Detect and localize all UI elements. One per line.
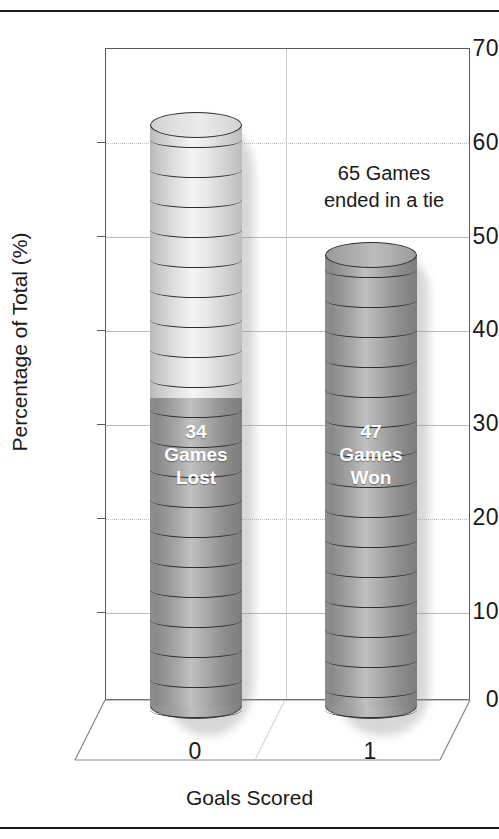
disc-ring — [150, 462, 242, 478]
x-axis-title: Goals Scored — [0, 786, 499, 810]
disc-ring — [325, 352, 417, 368]
bar-top-cap-left — [150, 112, 242, 138]
disc-ring — [150, 582, 242, 598]
disc-ring — [325, 702, 417, 718]
xtick-label-1: 1 — [325, 738, 415, 765]
disc-ring — [150, 192, 242, 208]
ytick-mark-50 — [97, 236, 105, 237]
disc-ring — [325, 562, 417, 578]
disc-ring — [325, 502, 417, 518]
disc-ring — [325, 442, 417, 458]
disc-ring — [150, 252, 242, 268]
page-top-rule — [0, 10, 499, 12]
disc-ring — [150, 402, 242, 418]
disc-ring — [325, 382, 417, 398]
ytick-mark-60 — [97, 142, 105, 143]
disc-ring — [150, 642, 242, 658]
bar-category-1[interactable]: 47 Games Won — [325, 240, 417, 735]
disc-ring — [325, 412, 417, 428]
disc-ring — [150, 672, 242, 688]
ytick-mark-20 — [97, 518, 105, 519]
ytick-mark-10 — [97, 612, 105, 613]
disc-ring — [325, 622, 417, 638]
disc-ring — [150, 282, 242, 298]
tie-annotation-line1: 65 Games — [296, 160, 472, 187]
chart-page: 70 60 50 40 30 20 10 0 Percentage of Tot… — [0, 0, 499, 839]
disc-ring — [150, 342, 242, 358]
tie-annotation: 65 Games ended in a tie — [296, 160, 472, 214]
disc-ring — [325, 532, 417, 548]
y-axis-title: Percentage of Total (%) — [8, 132, 32, 552]
ytick-mark-40 — [97, 330, 105, 331]
disc-ring — [150, 312, 242, 328]
page-bottom-rule — [0, 827, 499, 829]
disc-ring — [150, 702, 242, 718]
bar-category-0[interactable]: 34 Games Lost — [150, 110, 242, 735]
category-separator-gridline — [286, 49, 287, 699]
disc-ring — [325, 472, 417, 488]
disc-ring — [150, 222, 242, 238]
disc-ring — [150, 492, 242, 508]
tie-annotation-line2: ended in a tie — [296, 187, 472, 214]
disc-ring — [325, 592, 417, 608]
ytick-mark-30 — [97, 424, 105, 425]
disc-ring — [325, 682, 417, 698]
disc-ring — [150, 612, 242, 628]
disc-ring — [325, 322, 417, 338]
disc-ring — [150, 372, 242, 388]
disc-ring — [325, 292, 417, 308]
disc-ring — [150, 162, 242, 178]
disc-ring — [150, 522, 242, 538]
bar-top-cap-right — [325, 242, 417, 268]
disc-ring — [150, 432, 242, 448]
disc-ring — [150, 552, 242, 568]
disc-ring — [325, 652, 417, 668]
xtick-label-0: 0 — [150, 738, 240, 765]
